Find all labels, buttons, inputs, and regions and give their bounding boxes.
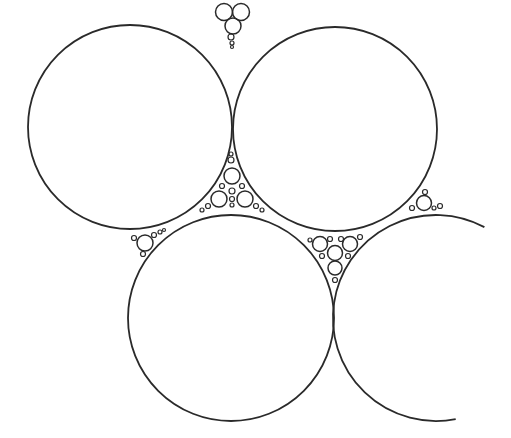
small-circle [211, 191, 227, 207]
small-circle [328, 261, 342, 275]
small-circle [333, 278, 338, 283]
small-circle [230, 41, 234, 45]
small-circle [254, 204, 259, 209]
small-circle [423, 190, 428, 195]
small-circle [132, 236, 137, 241]
small-circle [152, 233, 157, 238]
small-circle [260, 208, 264, 212]
small-circle [230, 197, 235, 202]
small-circle [206, 204, 211, 209]
small-circle [220, 184, 225, 189]
small-circle [228, 34, 234, 40]
small-circle [240, 184, 245, 189]
small-circle [225, 18, 241, 34]
small-circle [410, 206, 415, 211]
small-circle [200, 208, 204, 212]
small-circle [229, 188, 235, 194]
small-circle [432, 206, 436, 210]
large-circle-bottom-left [128, 215, 334, 421]
small-circle [308, 238, 312, 242]
small-circle [237, 191, 253, 207]
small-circle [224, 168, 240, 184]
small-circle [417, 196, 432, 211]
small-circle [228, 157, 234, 163]
small-circle [158, 230, 162, 234]
small-circle [346, 254, 351, 259]
small-circle [320, 254, 325, 259]
small-circle [163, 229, 166, 232]
small-circle [328, 237, 333, 242]
small-circle [438, 204, 443, 209]
small-circle [229, 152, 233, 156]
small-circle [328, 246, 343, 261]
small-circle [230, 203, 234, 207]
small-circle [339, 237, 344, 242]
partial-arc-bottom-right [333, 215, 484, 421]
small-circle [343, 237, 358, 252]
diagram-canvas [0, 0, 511, 438]
small-circle [313, 237, 328, 252]
large-circle-top-left [28, 25, 232, 229]
small-circle [358, 235, 363, 240]
circle-packing-diagram [0, 0, 511, 438]
small-circle [231, 46, 234, 49]
small-circle [137, 235, 153, 251]
large-circle-top-right [233, 27, 437, 231]
small-circle [141, 252, 146, 257]
